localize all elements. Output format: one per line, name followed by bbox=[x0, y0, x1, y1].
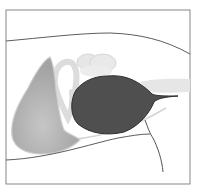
anatomy-illustration bbox=[0, 0, 197, 190]
pale-ovals bbox=[77, 54, 116, 77]
diagram-canvas bbox=[0, 0, 197, 190]
